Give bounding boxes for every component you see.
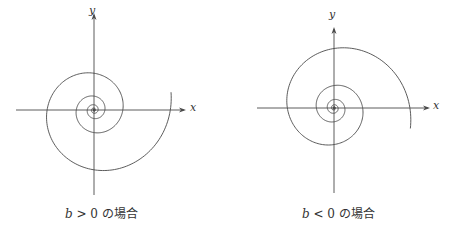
y-axis-label: y <box>329 8 335 21</box>
spiral-curve <box>47 73 172 171</box>
x-axis-label: x <box>433 99 439 112</box>
caption-variable: b <box>302 207 310 221</box>
caption-variable: b <box>65 207 73 221</box>
caption-b-positive: b > 0 の場合 <box>65 204 138 221</box>
spiral-curve <box>287 48 411 145</box>
origin-point <box>93 109 96 112</box>
origin-point <box>333 107 336 110</box>
x-axis-label: x <box>190 101 196 114</box>
y-axis-label: y <box>89 4 95 17</box>
spiral-diagram-b-negative <box>227 0 454 230</box>
spiral-diagram-b-positive <box>0 0 227 230</box>
caption-b-negative: b < 0 の場合 <box>302 204 375 221</box>
caption-condition: < 0 の場合 <box>310 207 375 221</box>
panel-b-positive: x y b > 0 の場合 <box>0 0 227 230</box>
caption-condition: > 0 の場合 <box>73 207 138 221</box>
panel-b-negative: x y b < 0 の場合 <box>227 0 454 230</box>
